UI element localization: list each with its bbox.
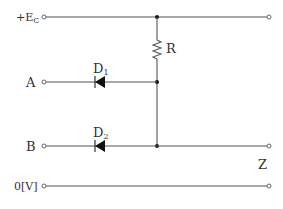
input-b-terminal [42, 144, 46, 148]
diode-d1-icon [95, 76, 105, 88]
ground-label: 0[V] [14, 180, 38, 193]
input-a-terminal [42, 80, 46, 84]
supply-terminal [42, 15, 46, 19]
circuit-diagram: +EC A B 0[V] Z R D1 D2 [0, 0, 283, 209]
diode-d2-icon [95, 140, 105, 152]
output-z-terminal [267, 144, 271, 148]
resistor-label: R [166, 41, 177, 56]
output-label: Z [258, 157, 267, 172]
diode2-label: D2 [93, 125, 109, 141]
ground-terminal [42, 184, 46, 188]
ground-right-terminal [267, 184, 271, 188]
supply-label: +EC [16, 11, 39, 25]
diode1-label: D1 [93, 61, 109, 77]
ground-rail [42, 184, 271, 188]
input-a-label: A [25, 75, 36, 90]
supply-right-terminal [267, 15, 271, 19]
input-a-line [42, 76, 157, 88]
input-b-label: B [26, 139, 36, 154]
